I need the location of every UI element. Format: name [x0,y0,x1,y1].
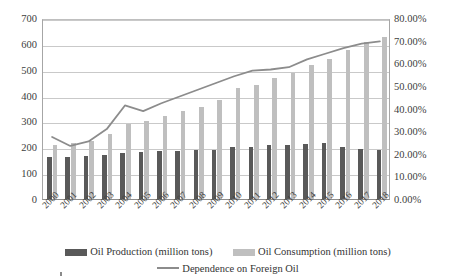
y-axis-right-tick-label: 30.00% [394,127,426,138]
y-axis-left-tick-label: 0 [32,195,37,206]
legend-row-2: Dependence on Foreign Oil [0,260,456,277]
y-axis-right-tick-label: 70.00% [394,36,426,47]
legend-swatch-icon-production [65,249,87,256]
y-axis-left-tick-label: 400 [21,91,37,102]
legend-swatch-icon-consumption [233,249,255,256]
legend-item-oil-production[interactable]: Oil Production (million tons) [65,243,212,259]
y-axis-left-tick-label: 300 [21,117,37,128]
y-axis-right-tick-label: 40.00% [394,104,426,115]
y-axis-left: 0100200300400500600700 [0,19,37,200]
y-axis-left-tick-label: 100 [21,169,37,180]
legend-row-1: Oil Production (million tons) Oil Consum… [0,243,456,260]
y-axis-right-tick-label: 80.00% [394,14,426,25]
legend-label-dependence: Dependence on Foreign Oil [182,263,298,274]
legend-label-consumption: Oil Consumption (million tons) [258,246,391,257]
y-axis-left-tick-label: 500 [21,65,37,76]
dependence-on-foreign-oil-line [52,41,380,146]
y-axis-right-tick-label: 20.00% [394,150,426,161]
y-axis-right-tick-label: 10.00% [394,172,426,183]
y-axis-right: 0.00%10.00%20.00%30.00%40.00%50.00%60.00… [394,19,456,200]
y-axis-right-tick-label: 60.00% [394,59,426,70]
legend-item-dependence-on-foreign-oil[interactable]: Dependence on Foreign Oil [157,260,298,276]
legend-line-icon-dependence [157,267,179,269]
chart-legend: Oil Production (million tons) Oil Consum… [0,243,456,276]
legend-item-oil-consumption[interactable]: Oil Consumption (million tons) [233,243,391,259]
stray-mark [60,272,62,276]
plot-area [42,19,390,200]
y-axis-right-tick-label: 50.00% [394,82,426,93]
y-axis-left-tick-label: 700 [21,14,37,25]
y-axis-right-tick-label: 0.00% [394,195,421,206]
y-axis-left-tick-label: 600 [21,40,37,51]
y-axis-left-tick-label: 200 [21,143,37,154]
dependence-line-layer [43,20,389,200]
x-axis-labels: 2000200120022003200420052006200720082009… [42,201,390,241]
oil-production-consumption-chart: 0100200300400500600700 0.00%10.00%20.00%… [0,0,456,280]
legend-label-production: Oil Production (million tons) [90,246,212,257]
